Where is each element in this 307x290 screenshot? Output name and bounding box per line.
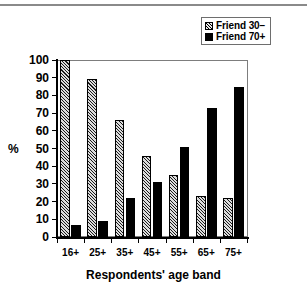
- y-axis-tick-label: 90: [9, 72, 49, 84]
- y-axis-tick-label: 30: [9, 178, 49, 190]
- x-axis-tick: [138, 238, 139, 243]
- x-axis-title: Respondents' age band: [0, 268, 307, 282]
- legend-swatch-solid-icon: [205, 33, 213, 41]
- x-axis-tick: [166, 238, 167, 243]
- legend-swatch-hatched-icon: [205, 22, 213, 30]
- bar-55plus-series-1: [169, 175, 179, 237]
- bar-45plus-series-1: [142, 156, 152, 237]
- x-axis-tick: [84, 238, 85, 243]
- chart-figure: Friend 30− Friend 70+ % 0102030405060708…: [0, 0, 307, 290]
- y-axis-tick-label: 40: [9, 160, 49, 172]
- legend-item-friend-30-minus: Friend 30−: [205, 20, 265, 31]
- bar-75plus-series-1: [223, 198, 233, 237]
- bar-16plus-series-1: [60, 60, 70, 237]
- bar-25plus-series-2: [98, 221, 108, 237]
- legend-label-series-1: Friend 30−: [216, 20, 265, 31]
- chart-legend: Friend 30− Friend 70+: [201, 17, 271, 45]
- y-axis-tick-label: 20: [9, 196, 49, 208]
- bar-35plus-series-1: [115, 120, 125, 237]
- legend-label-series-2: Friend 70+: [216, 31, 265, 42]
- y-axis-tick-label: 80: [9, 89, 49, 101]
- y-axis-tick-label: 100: [9, 54, 49, 66]
- bar-45plus-series-2: [153, 182, 163, 237]
- bar-65plus-series-1: [196, 196, 206, 237]
- x-axis-tick: [220, 238, 221, 243]
- x-axis-tick: [247, 238, 248, 243]
- y-axis-tick-label: 50: [9, 143, 49, 155]
- y-axis-tick-label: 0: [9, 231, 49, 243]
- bar-16plus-series-2: [71, 225, 81, 237]
- y-axis-tick-label: 60: [9, 125, 49, 137]
- bar-75plus-series-2: [234, 87, 244, 237]
- bar-35plus-series-2: [126, 198, 136, 237]
- bar-25plus-series-1: [87, 79, 97, 237]
- legend-item-friend-70-plus: Friend 70+: [205, 31, 265, 42]
- bar-series-container: [57, 60, 247, 237]
- x-axis-tick: [111, 238, 112, 243]
- x-axis-tick: [193, 238, 194, 243]
- bar-55plus-series-2: [180, 147, 190, 237]
- bar-65plus-series-2: [207, 108, 217, 237]
- y-axis-tick-label: 70: [9, 107, 49, 119]
- x-axis-tick-label-75plus: 75+: [213, 247, 253, 258]
- top-divider-rule: [0, 4, 307, 6]
- y-axis-tick-label: 10: [9, 213, 49, 225]
- x-axis-tick: [57, 238, 58, 243]
